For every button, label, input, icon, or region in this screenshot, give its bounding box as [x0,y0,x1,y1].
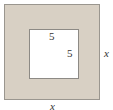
inner-right-side-label: 5 [67,48,73,59]
outer-right-side-label: x [104,48,109,59]
inner-top-side-label: 5 [49,31,55,42]
outer-bottom-side-label: x [50,101,55,110]
